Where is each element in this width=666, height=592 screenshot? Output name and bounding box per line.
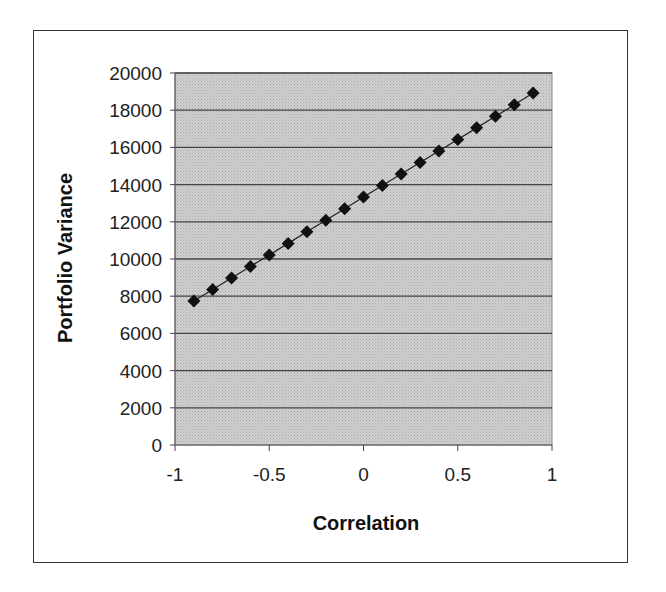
x-tick-label: -0.5 bbox=[253, 464, 286, 485]
y-tick-label: 20000 bbox=[109, 63, 162, 84]
x-tick-label: -1 bbox=[167, 464, 184, 485]
y-tick-label: 4000 bbox=[120, 361, 162, 382]
x-axis-title: Correlation bbox=[313, 512, 420, 534]
y-tick-label: 16000 bbox=[109, 137, 162, 158]
x-tick-labels: -1-0.500.51 bbox=[167, 464, 558, 485]
y-tick-label: 0 bbox=[151, 435, 162, 456]
scatter-chart: 0200040006000800010000120001400016000180… bbox=[0, 0, 666, 592]
y-tick-label: 6000 bbox=[120, 323, 162, 344]
y-tick-label: 2000 bbox=[120, 398, 162, 419]
y-axis-title: Portfolio Variance bbox=[54, 173, 76, 343]
y-tick-label: 18000 bbox=[109, 100, 162, 121]
y-tick-label: 14000 bbox=[109, 175, 162, 196]
y-tick-label: 10000 bbox=[109, 249, 162, 270]
y-tick-labels: 0200040006000800010000120001400016000180… bbox=[109, 63, 162, 456]
x-tick-label: 0.5 bbox=[445, 464, 471, 485]
x-tick-label: 0 bbox=[358, 464, 369, 485]
x-tick-label: 1 bbox=[547, 464, 558, 485]
y-tick-label: 12000 bbox=[109, 212, 162, 233]
y-tick-label: 8000 bbox=[120, 286, 162, 307]
